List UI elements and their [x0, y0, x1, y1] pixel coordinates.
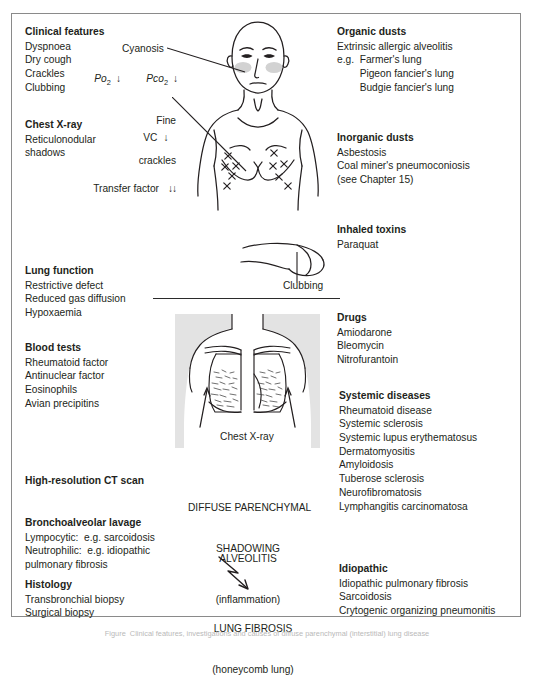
systemic-diseases-item: Systemic sclerosis: [339, 417, 477, 431]
fine-crackles-leader-line: [172, 97, 250, 175]
drugs-item: Nitrofurantoin: [337, 353, 398, 367]
po2-arrow-icon: ↓: [111, 73, 121, 84]
block-chest-xray-findings: Chest X-ray Reticulonodular shadows: [25, 118, 96, 160]
figure-caption: Figure Clinical features, investigations…: [0, 629, 534, 642]
inhaled-toxins-item: Paraquat: [337, 238, 406, 252]
organic-dusts-heading: Organic dusts: [337, 25, 454, 40]
drugs-item: Bleomycin: [337, 339, 398, 353]
block-bronchoalveolar-lavage: Bronchoalveolar lavage Lympocytic: e.g. …: [25, 516, 155, 572]
idiopathic-item: Sarcoidosis: [339, 590, 495, 604]
hrct-heading: High-resolution CT scan: [25, 474, 144, 489]
lung-function-item: Restrictive defect: [25, 279, 126, 293]
diffuse-line1: DIFFUSE PARENCHYMAL: [188, 501, 308, 515]
blood-tests-item: Avian precipitins: [25, 397, 108, 411]
clubbing-finger-illustration: [239, 238, 344, 290]
systemic-diseases-item: Systemic lupus erythematosus: [339, 431, 477, 445]
block-idiopathic: Idiopathic Idiopathic pulmonary fibrosis…: [339, 562, 495, 618]
histology-heading: Histology: [25, 578, 124, 593]
bal-item: pulmonary fibrosis: [25, 558, 155, 572]
inorganic-dusts-item: Asbestosis: [337, 146, 470, 160]
inorganic-dusts-item: Coal miner's pneumoconiosis: [337, 159, 470, 173]
chest-xray-heading: Chest X-ray: [25, 118, 96, 133]
lung-function-heading: Lung function: [25, 264, 126, 279]
inhaled-toxins-heading: Inhaled toxins: [337, 223, 406, 238]
organic-dusts-item: Budgie fancier's lung: [337, 81, 454, 95]
organic-dusts-item: Extrinsic allergic alveolitis: [337, 40, 454, 54]
chest-xray-item: Reticulonodular: [25, 133, 96, 147]
blood-tests-item: Eosinophils: [25, 383, 108, 397]
fibrosis-line2: (honeycomb lung): [188, 663, 318, 677]
annotation-vc: VC↓: [132, 118, 169, 158]
systemic-diseases-item: Rheumatoid disease: [339, 404, 477, 418]
section-divider: [153, 298, 340, 299]
bal-item: Neutrophilic: e.g. idiopathic: [25, 544, 155, 558]
cyanosis-leader-line: [167, 42, 247, 76]
clinical-features-item: Dyspnoea: [25, 40, 105, 54]
inorganic-dusts-heading: Inorganic dusts: [337, 131, 470, 146]
chest-xray-illustration: Chest X-ray: [175, 314, 320, 448]
block-inhaled-toxins: Inhaled toxins Paraquat: [337, 223, 406, 251]
blood-tests-item: Antinuclear factor: [25, 369, 108, 383]
idiopathic-item: Idiopathic pulmonary fibrosis: [339, 577, 495, 591]
systemic-diseases-item: Tuberose sclerosis: [339, 472, 477, 486]
transfer-factor-arrow-icon: ↓↓: [159, 183, 176, 194]
inorganic-dusts-item: (see Chapter 15): [337, 173, 470, 187]
chest-xray-panel: Chest X-ray: [175, 314, 320, 448]
clinical-features-heading: Clinical features: [25, 25, 105, 40]
histology-item: Surgical biopsy: [25, 606, 124, 620]
chest-xray-item: shadows: [25, 146, 96, 160]
block-inorganic-dusts: Inorganic dusts Asbestosis Coal miner's …: [337, 131, 470, 187]
chest-xray-caption-text: Chest X-ray: [220, 431, 275, 442]
block-blood-tests: Blood tests Rheumatoid factor Antinuclea…: [25, 341, 108, 410]
block-lung-function: Lung function Restrictive defect Reduced…: [25, 264, 126, 320]
progression-arrow-icon: [214, 554, 274, 596]
block-systemic-diseases: Systemic diseases Rheumatoid disease Sys…: [339, 389, 477, 513]
block-hrct: High-resolution CT scan: [25, 474, 144, 489]
block-organic-dusts: Organic dusts Extrinsic allergic alveoli…: [337, 25, 454, 94]
block-drugs: Drugs Amiodarone Bleomycin Nitrofurantoi…: [337, 311, 398, 367]
figure-frame: Clinical features Dyspnoea Dry cough Cra…: [11, 13, 521, 617]
bal-item: Lympocytic: e.g. sarcoidosis: [25, 531, 155, 545]
lung-function-item: Hypoxaemia: [25, 306, 126, 320]
systemic-diseases-item: Dermatomyositis: [339, 445, 477, 459]
transfer-factor-label: Transfer factor: [93, 183, 159, 194]
histology-item: Transbronchial biopsy: [25, 593, 124, 607]
drugs-item: Amiodarone: [337, 326, 398, 340]
lung-function-item: Reduced gas diffusion: [25, 292, 126, 306]
systemic-diseases-item: Amyloidosis: [339, 458, 477, 472]
idiopathic-item: Crytogenic organizing pneumonitis: [339, 604, 495, 618]
systemic-diseases-item: Neurofibromatosis: [339, 486, 477, 500]
organic-dusts-item: Pigeon fancier's lung: [337, 67, 454, 81]
pco2-label: Pco: [146, 73, 164, 84]
drugs-heading: Drugs: [337, 311, 398, 326]
po2-label: Po: [94, 73, 106, 84]
systemic-diseases-item: Lymphangitis carcinomatosa: [339, 500, 477, 514]
organic-dusts-item: e.g. Farmer's lung: [337, 53, 454, 67]
systemic-diseases-heading: Systemic diseases: [339, 389, 477, 404]
vc-arrow-icon: ↓: [157, 132, 168, 143]
blood-tests-item: Rheumatoid factor: [25, 356, 108, 370]
bal-heading: Bronchoalveolar lavage: [25, 516, 155, 531]
idiopathic-heading: Idiopathic: [339, 562, 495, 577]
annotation-cyanosis: Cyanosis: [122, 42, 164, 55]
blood-tests-heading: Blood tests: [25, 341, 108, 356]
vc-label: VC: [143, 132, 157, 143]
annotation-transfer-factor: Transfer factor↓↓: [82, 169, 176, 209]
block-histology: Histology Transbronchial biopsy Surgical…: [25, 578, 124, 620]
